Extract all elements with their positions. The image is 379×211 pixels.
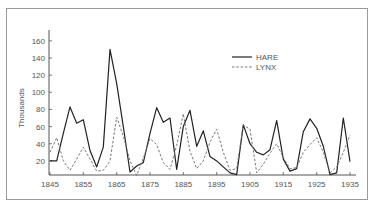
x-tick-label: 1885 [174,180,192,189]
y-axis-title: Thousands [17,88,26,128]
y-tick-label: 100 [32,88,46,97]
x-tick-label: 1925 [308,180,326,189]
x-tick-label: 1845 [41,180,59,189]
y-tick-label: 80 [36,105,45,114]
lynx-line [50,114,350,176]
hare-line [50,49,350,174]
x-tick-label: 1905 [241,180,259,189]
y-tick-label: 120 [32,71,46,80]
y-tick-label: 20 [36,157,45,166]
y-tick-label: 40 [36,140,45,149]
x-tick-label: 1865 [108,180,126,189]
line-chart: 2040608010012014016018451855186518751885… [0,0,379,211]
y-tick-label: 140 [32,54,46,63]
legend-lynx-label: LYNX [256,63,277,72]
x-tick-label: 1935 [341,180,359,189]
x-tick-label: 1855 [74,180,92,189]
y-tick-label: 160 [32,37,46,46]
x-tick-label: 1875 [141,180,159,189]
y-tick-label: 60 [36,123,45,132]
x-tick-label: 1915 [274,180,292,189]
series-lines [50,49,350,175]
legend-hare-label: HARE [256,53,278,62]
x-tick-label: 1895 [208,180,226,189]
legend: HARE LYNX [232,53,278,72]
